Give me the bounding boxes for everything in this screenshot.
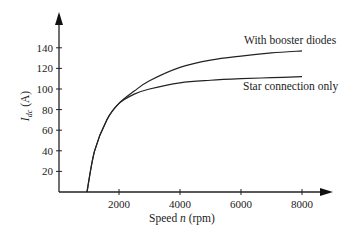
- x-tick-label: 6000: [230, 198, 253, 210]
- y-tick-label: 20: [42, 165, 54, 177]
- x-axis: 2000400060008000: [59, 188, 333, 210]
- y-axis-arrow-icon: [55, 12, 63, 25]
- x-tick-label: 2000: [108, 198, 131, 210]
- y-tick-label: 140: [37, 42, 54, 54]
- x-tick-label: 4000: [169, 198, 192, 210]
- y-tick-label: 40: [42, 145, 54, 157]
- x-axis-arrow-icon: [320, 188, 333, 196]
- y-tick-label: 60: [42, 124, 54, 136]
- series-line-star: [87, 77, 302, 192]
- x-axis-label: Speed n (rpm): [149, 212, 215, 225]
- y-tick-label: 80: [42, 104, 54, 116]
- x-tick-label: 8000: [291, 198, 314, 210]
- y-tick-label: 100: [37, 83, 54, 95]
- y-axis-label: Idc (A): [19, 91, 34, 122]
- chart: 20406080100120140 2000400060008000 Speed…: [0, 0, 347, 237]
- y-tick-label: 120: [37, 62, 54, 74]
- series-label-booster: With booster diodes: [244, 34, 337, 46]
- series-label-star: Star connection only: [243, 80, 338, 93]
- series-line-booster: [87, 51, 302, 192]
- y-axis: 20406080100120140: [37, 12, 64, 192]
- series-lines: [87, 51, 302, 192]
